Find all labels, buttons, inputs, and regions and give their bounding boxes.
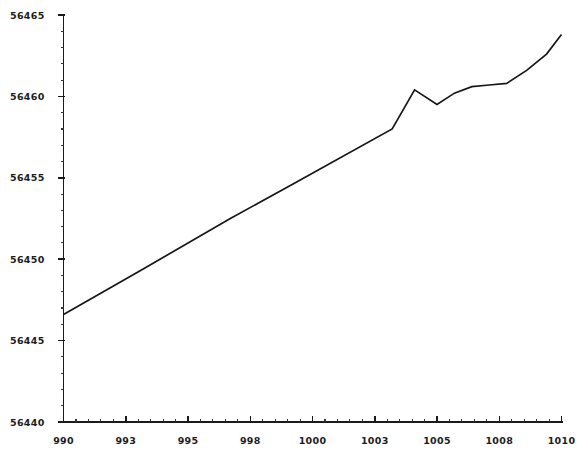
x-tick-label-4: 1000 [299,435,327,446]
y-tick-label-1: 56445 [10,335,45,346]
chart-container: 99099399599810001003100510081010 5644056… [0,0,577,457]
y-tick-label-4: 56460 [10,91,45,102]
x-tick-label-7: 1008 [485,435,513,446]
y-tick-label-5: 56465 [10,10,45,21]
x-tick-label-6: 1005 [423,435,451,446]
x-tick-label-8: 1010 [548,435,576,446]
line-chart-plot: 99099399599810001003100510081010 5644056… [0,0,577,457]
x-tick-label-0: 990 [53,435,74,446]
y-tick-label-0: 56440 [10,417,45,428]
y-tick-label-2: 56450 [10,254,45,265]
data-series-group [64,35,562,315]
axes-group [64,14,563,422]
y-tick-label-3: 56455 [10,172,45,183]
x-axis-ticks [64,416,562,423]
x-tick-label-3: 998 [240,435,261,446]
x-tick-label-5: 1003 [361,435,389,446]
x-tick-label-1: 993 [115,435,136,446]
y-axis-tick-labels: 564405644556450564555646056465 [10,10,45,428]
x-axis-tick-labels: 99099399599810001003100510081010 [53,435,575,446]
x-tick-label-2: 995 [178,435,199,446]
data-line-series-1 [64,35,562,315]
